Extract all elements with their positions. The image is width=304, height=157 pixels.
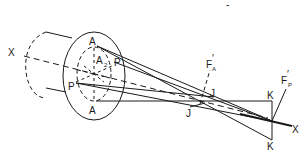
- label-fp-prime: ′: [287, 69, 289, 80]
- label-fp-sub: P: [288, 82, 292, 88]
- label-j-upper: J: [210, 88, 215, 99]
- label-p-left: P: [68, 81, 75, 92]
- label-j-lower: J: [186, 108, 191, 119]
- label-fa-prime: ′: [212, 53, 214, 64]
- label-p-right: P: [114, 57, 121, 68]
- label-fa-sub: A: [212, 66, 216, 72]
- label-a-bottom: A: [89, 105, 96, 116]
- rays: [76, 46, 292, 140]
- label-a2: A: [96, 55, 103, 66]
- label-k-bottom: K: [267, 141, 274, 152]
- label-a-top: A: [89, 36, 96, 47]
- top-mark: -: [226, 0, 229, 10]
- label-x-right: X: [292, 124, 299, 135]
- label-x-left: X: [8, 47, 15, 58]
- label-a2-sub: 2: [104, 62, 108, 68]
- optics-diagram: - X A A A 2 P P F ′ A F ′ P J J K K X: [0, 0, 304, 157]
- label-k-top: K: [267, 90, 274, 101]
- cylinder-back: [26, 32, 72, 98]
- optical-axis: [24, 56, 268, 118]
